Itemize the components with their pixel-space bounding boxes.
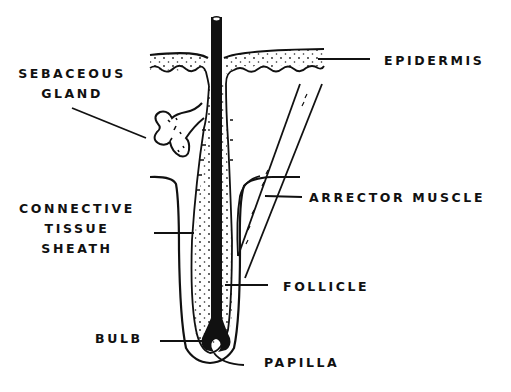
arrector-leader — [265, 196, 302, 197]
label-sebaceous-gland: SEBACEOUS GLAND — [16, 64, 128, 104]
label-bulb: BULB — [95, 329, 143, 349]
label-arrector-muscle: ARRECTOR MUSCLE — [309, 188, 485, 208]
sebaceous-gland — [155, 103, 204, 156]
label-papilla: PAPILLA — [264, 353, 339, 373]
label-connective-line3: SHEATH — [12, 239, 142, 259]
epidermis-layer — [150, 49, 324, 86]
hair-shaft — [211, 16, 222, 327]
label-sebaceous-line2: GLAND — [16, 84, 128, 104]
label-epidermis: EPIDERMIS — [384, 51, 484, 71]
label-connective-line2: TISSUE — [12, 219, 142, 239]
label-follicle: FOLLICLE — [283, 277, 369, 297]
label-sebaceous-line1: SEBACEOUS — [16, 64, 128, 84]
arrector-muscle — [237, 84, 322, 278]
label-connective-tissue-sheath: CONNECTIVE TISSUE SHEATH — [12, 199, 142, 259]
label-connective-line1: CONNECTIVE — [12, 199, 142, 219]
sebaceous-leader — [72, 108, 146, 138]
